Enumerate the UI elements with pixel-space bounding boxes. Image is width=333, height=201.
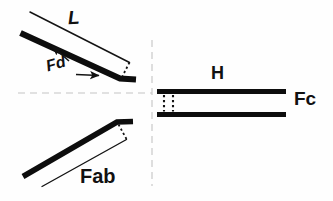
label-length-L: L [68, 8, 81, 28]
label-force-fc: Fc [294, 89, 316, 108]
lower-left-linkage [23, 122, 133, 187]
lower-dotted-connector [119, 125, 127, 140]
label-force-fab: Fab [80, 166, 116, 186]
figure-canvas: L Fd Fab H Fc [0, 0, 333, 201]
label-height-h: H [211, 64, 224, 82]
diagram-svg [0, 0, 333, 201]
lower-thick-bar [23, 122, 133, 177]
right-parallel-bars [157, 92, 286, 115]
fd-arrow-direction [76, 75, 99, 76]
